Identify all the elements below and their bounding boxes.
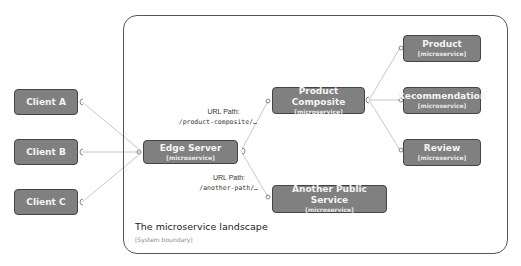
node-title: Product: [422, 39, 462, 50]
boundary-title: The microservice landscape: [135, 221, 268, 232]
edge-label-heading: URL Path:: [190, 107, 257, 117]
edge-label-path: /another-path/…: [180, 183, 258, 193]
node-subtitle: [microservice]: [166, 154, 215, 162]
node-title: Another Public Service: [273, 184, 386, 206]
node-title: Client B: [26, 147, 66, 158]
node-client-b[interactable]: Client B: [14, 139, 78, 165]
node-client-c[interactable]: Client C: [14, 189, 78, 215]
node-product[interactable]: Product [microservice]: [403, 35, 481, 62]
edge-label-heading: URL Path:: [200, 173, 258, 183]
node-review[interactable]: Review [microservice]: [403, 139, 481, 166]
node-subtitle: [microservice]: [418, 154, 467, 162]
node-title: Product Composite: [273, 86, 364, 108]
edge-label-product-composite: URL Path: /product-composite/…: [160, 107, 257, 127]
node-title: Edge Server: [160, 143, 222, 154]
node-subtitle: [microservice]: [294, 108, 343, 116]
node-title: Recommendation: [398, 91, 486, 102]
node-subtitle: [microservice]: [418, 50, 467, 58]
node-recommendation[interactable]: Recommendation [microservice]: [403, 87, 481, 114]
diagram-canvas: Client A Client B Client C Edge Server […: [0, 0, 521, 266]
edge-label-path: /product-composite/…: [160, 117, 257, 127]
node-client-a[interactable]: Client A: [14, 89, 78, 115]
node-edge-server[interactable]: Edge Server [microservice]: [143, 140, 238, 164]
node-title: Review: [424, 143, 460, 154]
node-product-composite[interactable]: Product Composite [microservice]: [272, 87, 365, 114]
node-title: Client A: [26, 97, 66, 108]
node-title: Client C: [26, 197, 65, 208]
node-another-public-service[interactable]: Another Public Service [microservice]: [272, 185, 387, 213]
node-subtitle: [microservice]: [305, 206, 354, 214]
node-subtitle: [microservice]: [418, 102, 467, 110]
edge-label-another-service: URL Path: /another-path/…: [180, 173, 258, 193]
boundary-subtitle: [System boundary]: [135, 236, 193, 243]
